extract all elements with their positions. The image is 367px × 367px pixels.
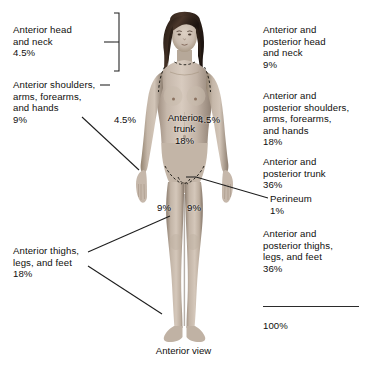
figure-caption: Anterior view xyxy=(0,345,367,356)
figure-label-thigh-subject-right: 9% xyxy=(152,202,176,213)
total-divider-rule xyxy=(263,306,359,307)
anterior-female-body-illustration xyxy=(112,4,257,344)
label-anterior-posterior-shoulders-arms-forearms-hands: Anterior and posterior shoulders, arms, … xyxy=(263,90,367,148)
label-anterior-head-and-neck: Anterior head and neck 4.5% xyxy=(13,24,109,59)
foot-subject-right xyxy=(164,326,183,342)
label-anterior-posterior-trunk: Anterior and posterior trunk 36% xyxy=(263,156,365,191)
hand-subject-right xyxy=(136,170,147,203)
label-anterior-thighs-legs-feet: Anterior thighs, legs, and feet 18% xyxy=(13,245,113,280)
label-anterior-posterior-head-and-neck: Anterior and posterior head and neck 9% xyxy=(263,24,365,70)
label-anterior-shoulders-arms-forearms-hands: Anterior shoulders, arms, forearms, and … xyxy=(13,79,121,125)
hand-subject-left xyxy=(222,170,233,203)
figure-label-anterior-trunk: Anterior trunk 18% xyxy=(152,112,217,146)
foot-subject-left xyxy=(187,326,206,342)
label-perineum: Perineum 1% xyxy=(270,193,366,216)
rule-of-nines-diagram: 4.5% 4.5% Anterior trunk 18% 9% 9% Anter… xyxy=(0,0,367,367)
figure-label-thigh-subject-left: 9% xyxy=(182,202,206,213)
body-figure: 4.5% 4.5% Anterior trunk 18% 9% 9% xyxy=(112,4,257,344)
label-anterior-posterior-thighs-legs-feet: Anterior and posterior thighs, legs, and… xyxy=(263,228,367,274)
label-total-percent: 100% xyxy=(263,320,333,332)
